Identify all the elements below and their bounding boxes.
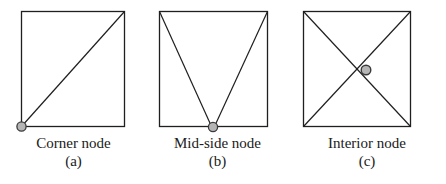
corner-node-panel <box>17 12 125 132</box>
quad-element-outline-b <box>160 12 268 127</box>
caption-name-b: Mid-side node <box>145 134 290 152</box>
caption-name-a: Corner node <box>0 134 147 152</box>
caption-tag-b: (b) <box>145 152 290 170</box>
caption-name-c: Interior node <box>288 134 446 152</box>
node-types-figure: Corner node (a) Mid-side node (b) Interi… <box>0 0 446 184</box>
node-marker-corner <box>17 122 26 131</box>
caption-tag-c: (c) <box>288 152 446 170</box>
caption-panel-c: Interior node (c) <box>288 134 446 171</box>
caption-panel-b: Mid-side node (b) <box>145 134 290 171</box>
node-marker-mid-side <box>208 122 217 131</box>
caption-panel-a: Corner node (a) <box>0 134 147 171</box>
mid-side-node-panel <box>160 12 268 132</box>
interior-node-panel <box>304 12 411 127</box>
caption-tag-a: (a) <box>0 152 147 170</box>
node-marker-interior <box>361 65 371 75</box>
